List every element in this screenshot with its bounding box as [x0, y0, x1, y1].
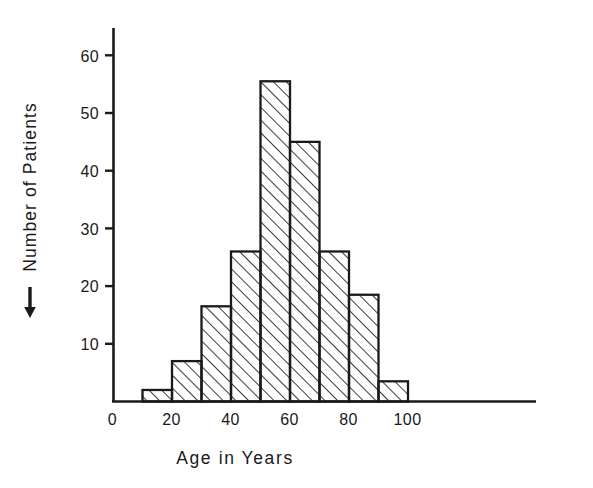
- bar-60-70: [290, 142, 320, 402]
- x-tick-label-0: 0: [91, 411, 135, 429]
- bar-10-20: [143, 390, 173, 402]
- bar-50-60: [261, 81, 291, 401]
- x-tick-label-40: 40: [209, 411, 253, 429]
- y-tick-label-50: 50: [55, 105, 99, 123]
- bar-30-40: [202, 306, 232, 401]
- x-tick-label-60: 60: [268, 411, 312, 429]
- bar-40-50: [231, 251, 261, 401]
- y-axis-title-group: Number of Patients: [0, 0, 60, 420]
- y-tick-label-40: 40: [55, 163, 99, 181]
- y-axis-title: Number of Patients: [20, 102, 41, 272]
- y-tick-label-30: 30: [55, 221, 99, 239]
- histogram-bars: [143, 81, 409, 401]
- y-tick-label-10: 10: [55, 336, 99, 354]
- y-tick-label-60: 60: [55, 48, 99, 66]
- x-tick-label-100: 100: [386, 411, 430, 429]
- x-tick-label-80: 80: [327, 411, 371, 429]
- histogram-figure: 60 50 40 30 20 10 0 20 40 60 80 100 Numb…: [0, 0, 593, 488]
- bar-90-100: [379, 381, 409, 401]
- x-axis-title: Age in Years: [0, 448, 470, 469]
- y-tick-label-20: 20: [55, 278, 99, 296]
- bar-70-80: [320, 251, 350, 401]
- up-arrow-icon: [22, 284, 38, 318]
- bar-80-90: [349, 295, 379, 402]
- x-tick-label-20: 20: [150, 411, 194, 429]
- bar-20-30: [172, 361, 202, 401]
